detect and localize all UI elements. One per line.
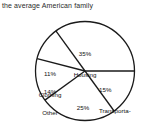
slice-label-food: 25% Food [64, 90, 102, 125]
slice-percent-transportation: 15% [99, 86, 143, 93]
pie-chart-figure: the average American family 35% Housing … [0, 0, 146, 125]
slice-label-transportation: 15% Transporta- tion [99, 72, 143, 125]
slice-percent-food: 25% [64, 104, 102, 111]
slice-name-transportation: Transporta- [99, 107, 143, 114]
